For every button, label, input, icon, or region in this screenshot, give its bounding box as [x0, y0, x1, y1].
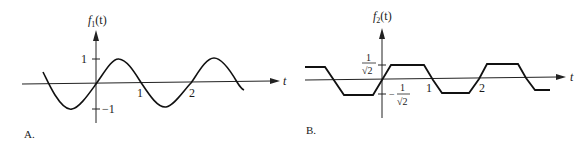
y-axis-arrow-icon — [93, 30, 99, 41]
y-tick-label-pos-b: 1 √2 — [362, 52, 376, 76]
y-tick-label-neg-b: − 1 √2 — [389, 82, 410, 107]
svg-text:1: 1 — [366, 52, 371, 63]
svg-text:1: 1 — [400, 82, 405, 93]
svg-text:√2: √2 — [397, 96, 408, 107]
y-axis-label-a: f1(t) — [88, 13, 107, 29]
y-tick-label-pos-a: 1 — [81, 52, 87, 66]
x-axis-arrow-icon — [556, 74, 566, 80]
x-tick-label-1-b: 1 — [426, 81, 432, 95]
x-tick-label-2-a: 2 — [189, 86, 195, 100]
x-axis-label-b: t — [570, 70, 574, 84]
y-axis-arrow-icon — [379, 28, 385, 39]
x-axis-a — [22, 81, 272, 84]
svg-text:√2: √2 — [362, 65, 373, 76]
x-tick-label-1-a: 1 — [137, 86, 143, 100]
chart-panel-a: t f1(t) 1 −1 1 2 A. — [22, 13, 287, 140]
x-axis-label-a: t — [283, 74, 287, 88]
panel-label-b: B. — [306, 124, 316, 136]
panel-label-a: A. — [24, 128, 35, 140]
chart-panel-b: t f2(t) 1 √2 − 1 √2 1 2 B. — [305, 9, 574, 136]
x-axis-arrow-icon — [270, 78, 280, 84]
y-axis-label-b: f2(t) — [373, 9, 392, 25]
figure: t f1(t) 1 −1 1 2 A. t f2(t) 1 √2 — [0, 0, 586, 145]
svg-text:−: − — [389, 89, 395, 100]
x-tick-label-2-b: 2 — [479, 81, 485, 95]
y-tick-label-neg-a: −1 — [102, 102, 115, 116]
